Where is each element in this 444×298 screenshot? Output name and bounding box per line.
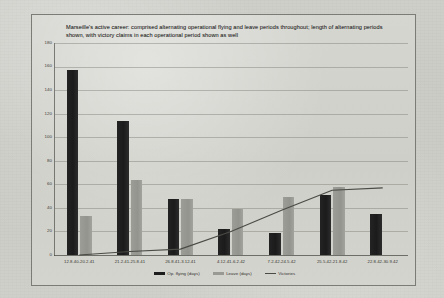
y-tick-label-20: 20 (36, 229, 52, 233)
legend-swatch-flying (154, 272, 165, 275)
y-tick-label-160: 160 (36, 64, 52, 68)
gridline-0 (54, 255, 408, 256)
y-tick-label-80: 80 (36, 159, 52, 163)
legend-item[interactable]: Leave (days) (213, 271, 252, 276)
chart-title: Marseille's active career: comprised alt… (66, 23, 396, 40)
y-tick-label-120: 120 (36, 112, 52, 116)
y-tick-label-140: 140 (36, 88, 52, 92)
x-axis-label: 7.2.42-24.5.42 (256, 259, 307, 264)
legend-swatch-line (265, 273, 276, 274)
x-axis-label: 25.5.42-21.8.42 (307, 259, 358, 264)
x-axis-label: 22.8.42-30.9.42 (357, 259, 408, 264)
y-tick-label-60: 60 (36, 182, 52, 186)
legend-swatch-leave (213, 272, 224, 275)
x-axis-label: 26.8.41-3.12.41 (155, 259, 206, 264)
chart-legend: Op. flying (days)Leave (days)Victories (32, 271, 417, 276)
x-axis-label: 12.8.40-20.2.41 (54, 259, 105, 264)
legend-label: Leave (days) (226, 271, 252, 276)
y-axis-tick-labels: 020406080100120140160180 (32, 43, 52, 255)
legend-item[interactable]: Op. flying (days) (154, 271, 200, 276)
x-axis-label: 21.2.41-25.8.41 (105, 259, 156, 264)
y-tick-label-100: 100 (36, 135, 52, 139)
scanned-page-background: Marseille's active career: comprised alt… (0, 0, 444, 298)
y-tick-label-0: 0 (36, 253, 52, 257)
victories-polyline (79, 188, 382, 255)
y-tick-label-180: 180 (36, 41, 52, 45)
y-tick-label-40: 40 (36, 206, 52, 210)
legend-item[interactable]: Victories (265, 271, 295, 276)
x-axis-label: 4.12.41-6.2.42 (206, 259, 257, 264)
victories-line-series (54, 43, 408, 255)
plot-area: 12.8.40-20.2.4121.2.41-25.8.4126.8.41-3.… (54, 43, 408, 255)
legend-label: Victories (278, 271, 295, 276)
legend-label: Op. flying (days) (167, 271, 199, 276)
chart-frame: Marseille's active career: comprised alt… (31, 14, 416, 286)
